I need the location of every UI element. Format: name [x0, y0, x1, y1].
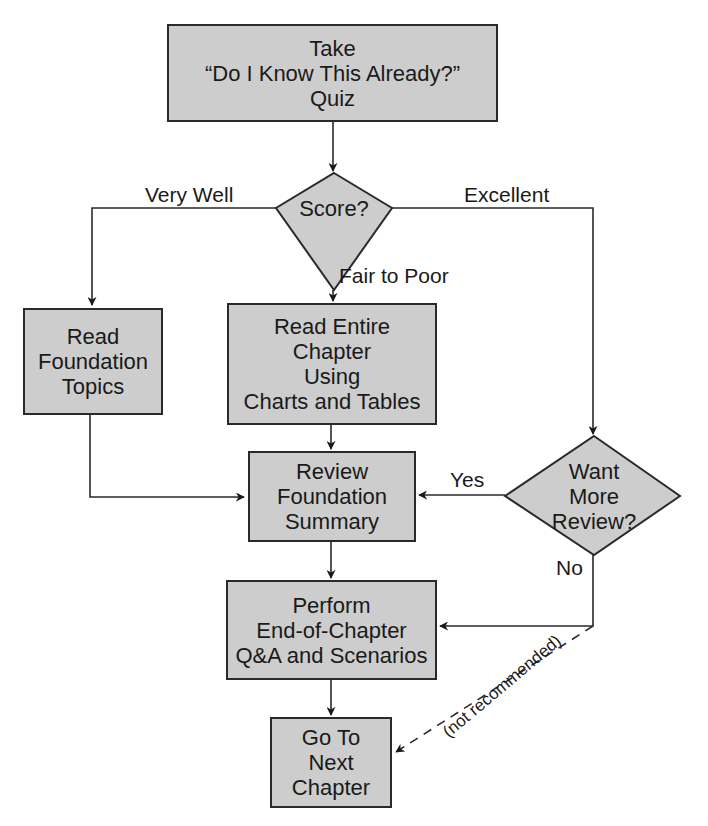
node-next-line-2: Next [308, 750, 353, 775]
edge-label-very-well: Very Well [145, 183, 233, 207]
node-read-chapter-line-3: Using [304, 364, 360, 389]
node-perform-line-3: Q&A and Scenarios [235, 643, 427, 668]
node-take-quiz-line-1: Take [309, 36, 355, 61]
edge-label-excellent: Excellent [464, 183, 549, 207]
decision-want-more-line-1: Want [569, 459, 620, 484]
edge-score-to-read-topics [92, 208, 276, 305]
node-review-foundation-summary: Review Foundation Summary [248, 451, 416, 542]
decision-want-more-line-3: Review? [552, 509, 636, 534]
decision-score-label: Score? [276, 190, 392, 226]
edge-label-yes: Yes [450, 468, 484, 492]
node-take-quiz: Take “Do I Know This Already?” Quiz [167, 24, 498, 122]
node-take-quiz-line-2: “Do I Know This Already?” [205, 61, 460, 86]
node-perform-line-1: Perform [292, 593, 370, 618]
node-read-foundation-topics: Read Foundation Topics [23, 308, 163, 415]
node-read-entire-chapter: Read Entire Chapter Using Charts and Tab… [227, 303, 437, 425]
node-perform-line-2: End-of-Chapter [256, 618, 406, 643]
node-take-quiz-line-3: Quiz [310, 86, 355, 111]
edge-label-no: No [556, 556, 583, 580]
decision-want-more-line-2: More [569, 484, 619, 509]
node-next-line-3: Chapter [292, 775, 370, 800]
node-review-line-2: Foundation [277, 484, 387, 509]
node-read-chapter-line-4: Charts and Tables [244, 389, 421, 414]
node-read-chapter-line-1: Read Entire [274, 314, 390, 339]
decision-want-more-label: Want More Review? [534, 456, 654, 536]
node-read-topics-line-3: Topics [62, 374, 124, 399]
node-review-line-1: Review [296, 459, 368, 484]
decision-score-text: Score? [299, 196, 369, 221]
node-read-chapter-line-2: Chapter [293, 339, 371, 364]
node-read-topics-line-2: Foundation [38, 349, 148, 374]
node-next-line-1: Go To [302, 725, 360, 750]
edge-label-fair-to-poor: Fair to Poor [339, 264, 449, 288]
edge-read-topics-to-review [90, 414, 244, 497]
node-perform-qa: Perform End-of-Chapter Q&A and Scenarios [226, 580, 437, 680]
node-go-to-next-chapter: Go To Next Chapter [270, 717, 392, 808]
node-review-line-3: Summary [285, 509, 379, 534]
node-read-topics-line-1: Read [67, 324, 120, 349]
